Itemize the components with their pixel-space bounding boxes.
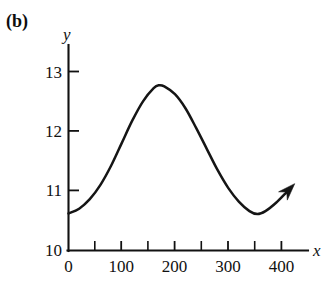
x-tick-label-100: 100 xyxy=(108,257,134,276)
y-tick-label-11: 11 xyxy=(46,181,62,200)
x-tick-label-300: 300 xyxy=(215,257,241,276)
x-tick-label-200: 200 xyxy=(162,257,188,276)
figure-panel-b: (b) 13 12 11 10 0 100 200 300 400 y x xyxy=(0,0,332,287)
x-tick-label-0: 0 xyxy=(64,257,73,276)
x-axis-title: x xyxy=(312,241,321,260)
y-tick-label-13: 13 xyxy=(45,63,62,82)
y-tick-label-12: 12 xyxy=(45,122,62,141)
y-tick-label-10: 10 xyxy=(45,241,62,260)
x-tick-label-400: 400 xyxy=(269,257,295,276)
data-curve xyxy=(69,85,289,214)
y-axis-title: y xyxy=(61,25,71,44)
chart-plot: 13 12 11 10 0 100 200 300 400 y x xyxy=(0,0,332,287)
